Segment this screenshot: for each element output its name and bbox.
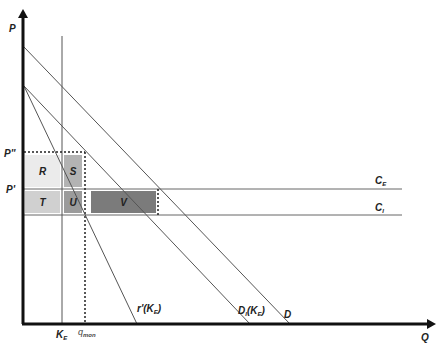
q-axis-arrow-icon xyxy=(427,319,436,329)
p-axis-label: P xyxy=(9,24,16,34)
di-label: DI(KE) xyxy=(238,306,265,317)
qmon-label: qmon xyxy=(78,328,96,338)
r-prime-label: r'(KE) xyxy=(137,304,161,315)
area-s-label: S xyxy=(64,166,82,177)
d-label: D xyxy=(284,310,291,320)
p-axis-arrow-icon xyxy=(18,9,28,18)
area-r-label: R xyxy=(25,166,60,177)
area-u-box: U xyxy=(64,191,82,213)
area-s-box: S xyxy=(64,155,82,187)
area-v-box: V xyxy=(91,191,156,213)
q-axis-label: Q xyxy=(421,333,429,343)
p-prime-label: P' xyxy=(6,185,15,195)
area-u-label: U xyxy=(64,197,82,208)
p-double-prime-label: P'' xyxy=(4,149,15,159)
area-t-box: T xyxy=(25,191,60,213)
ke-label: KE xyxy=(56,330,67,341)
area-r-box: R xyxy=(25,155,60,187)
ce-label: CE xyxy=(375,176,386,187)
ci-label: CI xyxy=(375,203,384,214)
area-t-label: T xyxy=(25,197,60,208)
area-v-label: V xyxy=(91,197,156,208)
